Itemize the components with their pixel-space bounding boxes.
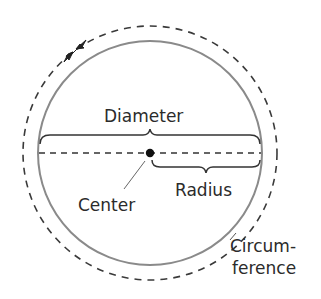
circumference-label-line1: Circum- (230, 236, 296, 256)
circumference-label-line2: ference (232, 258, 296, 278)
radius-label: Radius (175, 180, 232, 200)
center-label: Center (78, 195, 135, 215)
diameter-bracket (40, 129, 260, 144)
center-leader-line (124, 161, 145, 189)
center-dot (146, 149, 154, 157)
radius-bracket (152, 160, 260, 173)
circle-diagram: Diameter Radius Center Circum- ference (0, 0, 321, 299)
thickness-arrows-icon (64, 40, 86, 62)
diameter-label: Diameter (104, 106, 183, 126)
